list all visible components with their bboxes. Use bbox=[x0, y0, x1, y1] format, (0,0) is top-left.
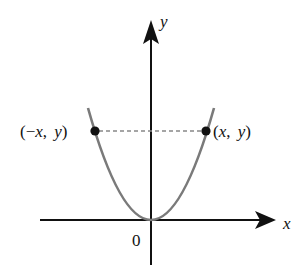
point-right-label: (x, y) bbox=[213, 122, 251, 141]
x-axis-label: x bbox=[282, 214, 291, 233]
origin-label: 0 bbox=[132, 231, 141, 250]
y-axis-label: y bbox=[158, 12, 168, 31]
point-left bbox=[90, 126, 99, 135]
diagram-canvas: y x 0 (−x, y) (x, y) bbox=[0, 0, 299, 273]
point-right bbox=[201, 126, 210, 135]
point-left-label: (−x, y) bbox=[20, 122, 68, 141]
